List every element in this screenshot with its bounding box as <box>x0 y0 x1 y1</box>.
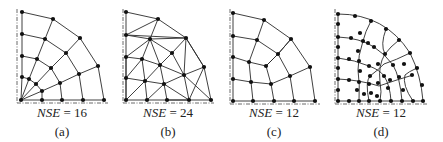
mesh-node <box>251 99 255 103</box>
element-edge <box>142 59 145 81</box>
element-edge <box>257 40 278 54</box>
element-edge <box>22 56 37 59</box>
mesh-node <box>367 82 371 86</box>
mesh-node <box>40 98 44 102</box>
mesh-node <box>397 38 401 42</box>
mesh-node <box>383 52 387 56</box>
mesh-node <box>64 51 68 55</box>
mesh-node <box>19 98 23 102</box>
element-edge <box>271 84 274 101</box>
element-edge <box>126 81 145 100</box>
element-edge <box>290 76 294 101</box>
mesh-node <box>78 36 82 40</box>
mesh-node <box>231 34 235 38</box>
mesh-node <box>391 63 395 67</box>
element-edge <box>60 83 62 100</box>
mesh-node <box>124 10 128 14</box>
element-edge <box>98 66 104 100</box>
mesh-node <box>124 55 128 59</box>
mesh-node <box>347 57 351 61</box>
element-edge <box>150 39 160 65</box>
mesh-node <box>49 66 53 70</box>
element-edge <box>160 65 184 75</box>
element-edge <box>404 68 417 101</box>
element-edge <box>290 67 310 76</box>
mesh-node <box>361 39 365 43</box>
mesh-node <box>368 74 372 78</box>
mesh-node <box>27 77 31 81</box>
mesh-node <box>369 91 373 95</box>
mesh-node <box>376 81 380 85</box>
mesh-node <box>165 98 169 102</box>
element-edge <box>257 20 264 40</box>
mesh-node <box>356 49 360 53</box>
element-edge <box>36 68 51 84</box>
mesh-node <box>313 99 317 103</box>
element-edge <box>22 12 53 19</box>
mesh-node <box>209 98 213 102</box>
mesh-node <box>20 75 24 79</box>
element-edge <box>37 59 51 68</box>
nse-label-b: NSE = 24 <box>118 105 218 121</box>
element-edge <box>29 59 37 79</box>
mesh-node <box>358 69 362 73</box>
mesh-node <box>187 98 191 102</box>
element-edge <box>266 66 271 84</box>
mesh-node <box>231 99 235 103</box>
element-edge <box>249 62 251 82</box>
mesh-node <box>336 66 340 70</box>
mesh-node <box>292 99 296 103</box>
mesh-node <box>140 57 144 61</box>
mesh-node <box>255 38 259 42</box>
element-edge <box>60 74 79 83</box>
element-edge <box>51 53 66 68</box>
element-edge <box>186 38 204 67</box>
mesh-node <box>308 65 312 69</box>
mesh-node <box>158 63 162 67</box>
element-edge <box>145 65 160 81</box>
mesh-node <box>336 56 340 60</box>
element-edge <box>142 59 160 65</box>
element-edge <box>80 38 98 66</box>
element-edge <box>233 57 249 62</box>
caption-c: (c) <box>224 124 324 140</box>
element-edge <box>66 53 79 74</box>
mesh-node <box>411 99 415 103</box>
element-edge <box>264 20 291 39</box>
mesh-node <box>408 51 412 55</box>
element-edge <box>147 84 164 100</box>
element-edge <box>160 53 172 65</box>
mesh-node <box>145 98 149 102</box>
caption-a: (a) <box>12 124 112 140</box>
mesh-node <box>58 81 62 85</box>
element-edge <box>160 65 164 84</box>
element-edge <box>233 13 264 20</box>
mesh-node <box>401 88 405 92</box>
mesh-node <box>372 45 376 49</box>
nse-label-c: NSE = 12 <box>224 105 324 121</box>
mesh-node <box>336 99 340 103</box>
element-edge <box>126 19 158 35</box>
mesh-node <box>357 59 361 63</box>
element-edge <box>251 82 253 101</box>
element-edge <box>233 36 257 40</box>
element-edge <box>164 84 167 100</box>
mesh-node <box>276 52 280 56</box>
mesh-node <box>357 99 361 103</box>
mesh-node <box>349 36 353 40</box>
mesh-node <box>34 82 38 86</box>
nse-label-d: NSE = 12 <box>331 105 431 121</box>
mesh-node <box>362 92 366 96</box>
element-edge <box>42 83 60 91</box>
element-edge <box>271 76 290 84</box>
mesh-node <box>249 80 253 84</box>
mesh-node <box>369 19 373 23</box>
mesh-node <box>20 32 24 36</box>
element-edge <box>266 54 278 66</box>
mesh-node <box>415 66 419 70</box>
caption-d: (d) <box>331 124 431 140</box>
mesh-node <box>421 99 425 103</box>
mesh-node <box>367 99 371 103</box>
mesh-node <box>102 98 106 102</box>
mesh-panel-a <box>17 9 108 103</box>
